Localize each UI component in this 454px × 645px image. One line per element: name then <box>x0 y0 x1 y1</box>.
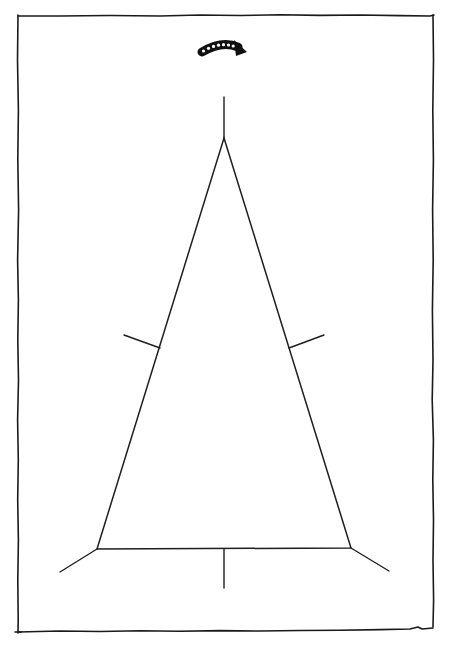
arrow-dot <box>207 47 210 50</box>
curved-arrow-icon <box>202 40 247 56</box>
bottom-left-tick <box>60 549 97 572</box>
left-edge-tick <box>124 335 160 348</box>
frame-right <box>432 15 433 627</box>
arrow-dot <box>227 43 230 46</box>
arrow-dot <box>217 44 220 47</box>
frame-bottom <box>18 627 433 632</box>
curved-arrow-head <box>234 40 247 56</box>
diagram-canvas <box>0 0 454 645</box>
bottom-right-tick <box>351 548 389 571</box>
frame-top <box>18 15 434 16</box>
arrow-dot <box>212 45 215 48</box>
triangle <box>97 138 351 549</box>
frame-left <box>18 15 19 633</box>
arrow-dot <box>222 43 225 46</box>
vertex-ticks <box>60 97 389 572</box>
right-edge-tick <box>289 335 324 348</box>
arrow-dot <box>202 49 205 52</box>
arrow-dot <box>232 44 235 47</box>
edge-ticks <box>124 335 324 588</box>
